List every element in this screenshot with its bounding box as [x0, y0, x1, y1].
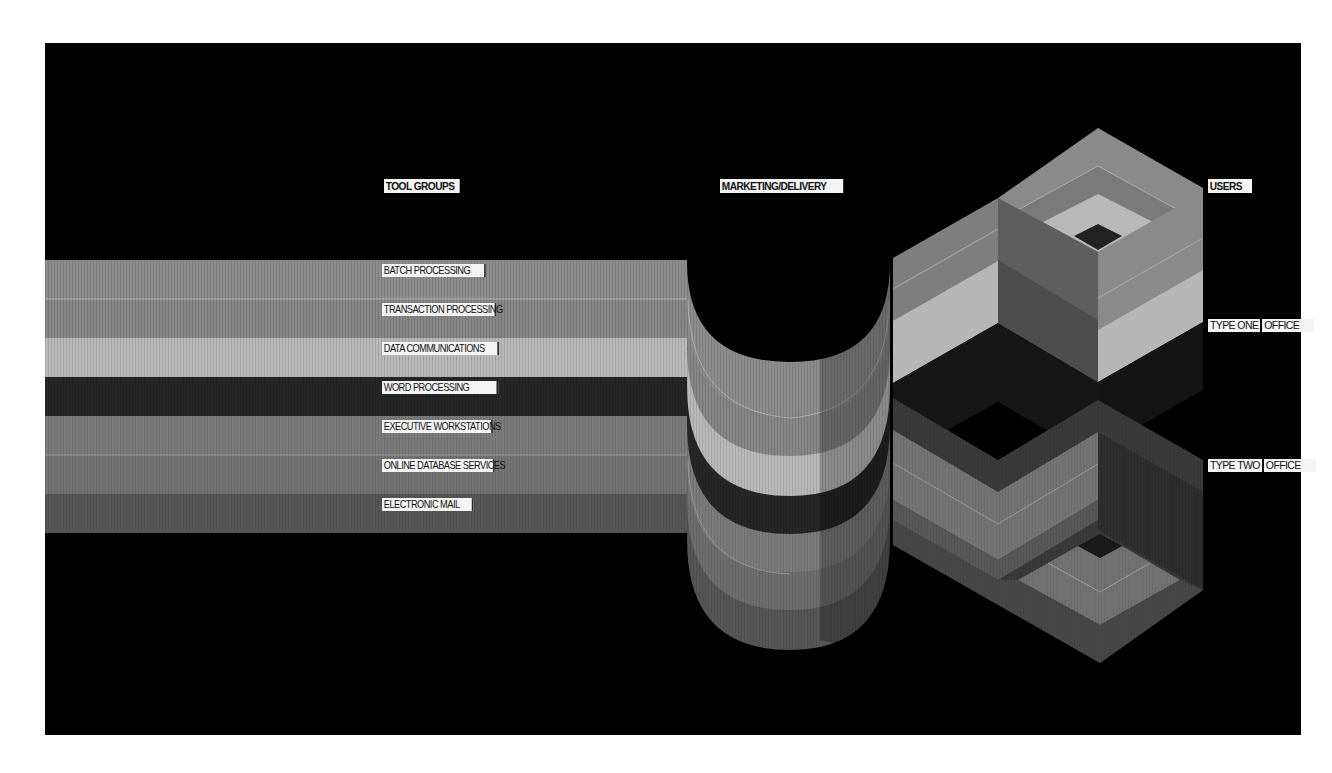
- heading-users: USERS: [1208, 179, 1252, 193]
- user-type-two-office: TYPE TWO OFFICE: [1208, 459, 1316, 472]
- label-data-communications: DATA COMMUNICATIONS: [382, 342, 499, 355]
- user-type-one-office-label: OFFICE: [1262, 319, 1314, 332]
- type-two-office-shape: [893, 398, 1203, 663]
- tool-group-bands: [45, 260, 687, 533]
- label-online-database-services: ONLINE DATABASE SERVICES: [382, 459, 495, 472]
- heading-marketing-delivery: MARKETING/DELIVERY: [720, 179, 843, 193]
- heading-tool-groups: TOOL GROUPS: [384, 179, 460, 193]
- flow-diagram-graphic: [0, 0, 1332, 773]
- label-batch-processing: BATCH PROCESSING: [382, 264, 486, 277]
- marketing-delivery-curve: [687, 258, 890, 650]
- label-executive-workstations: EXECUTIVE WORKSTATIONS: [382, 420, 493, 433]
- label-transaction-processing: TRANSACTION PROCESSING: [382, 303, 496, 316]
- label-electronic-mail: ELECTRONIC MAIL: [382, 498, 474, 511]
- user-type-two-office-label: OFFICE: [1264, 459, 1316, 472]
- user-type-one-office: TYPE ONE OFFICE: [1208, 319, 1314, 332]
- label-word-processing: WORD PROCESSING: [382, 381, 498, 394]
- user-type-one-label: TYPE ONE: [1208, 319, 1260, 332]
- user-type-two-label: TYPE TWO: [1208, 459, 1262, 472]
